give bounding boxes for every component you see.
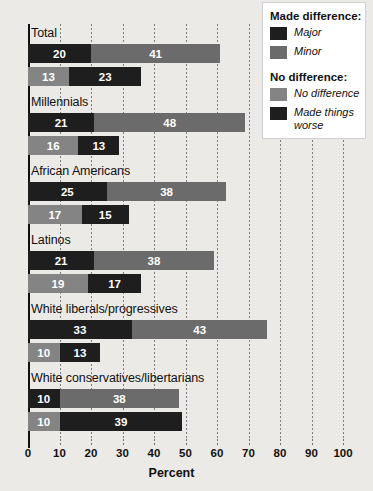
x-tick-label: 50 <box>171 447 201 459</box>
bar-row-made-difference: 2538 <box>28 182 343 201</box>
bar-row-no-difference: 1715 <box>28 205 343 224</box>
x-tick-label: 80 <box>265 447 295 459</box>
bar-segment: 25 <box>28 182 107 201</box>
x-tick <box>91 439 92 446</box>
legend-swatch-major <box>270 27 287 40</box>
bar-segment: 17 <box>28 205 82 224</box>
bar-segment: 13 <box>28 67 69 86</box>
bar-segment: 41 <box>91 44 220 63</box>
bar-segment: 38 <box>94 251 214 270</box>
x-tick-label: 10 <box>45 447 75 459</box>
bar-segment: 16 <box>28 136 78 155</box>
bar-segment: 39 <box>60 412 183 431</box>
bar-group: White liberals/progressives33431013 <box>28 302 343 371</box>
legend-item: Made things worse <box>270 106 365 131</box>
bar-segment: 19 <box>28 274 88 293</box>
bar-group: African Americans25381715 <box>28 164 343 233</box>
x-tick-label: 60 <box>202 447 232 459</box>
bar-row-made-difference: 2138 <box>28 251 343 270</box>
bar-group: White conservatives/libertarians10381039 <box>28 371 343 440</box>
legend: Made difference: MajorMinor No differenc… <box>262 2 366 139</box>
legend-group-no-difference: No differenceMade things worse <box>270 87 365 131</box>
x-tick-label: 20 <box>76 447 106 459</box>
legend-heading-made-difference: Made difference: <box>270 10 365 22</box>
legend-swatch-nodiff <box>270 88 287 101</box>
bar-segment: 33 <box>28 320 132 339</box>
bar-row-made-difference: 1038 <box>28 389 343 408</box>
group-label: Total <box>31 26 57 40</box>
bar-segment: 10 <box>28 389 60 408</box>
x-tick-label: 70 <box>234 447 264 459</box>
group-label: White conservatives/libertarians <box>31 371 204 385</box>
legend-item: No difference <box>270 87 365 101</box>
x-tick <box>217 439 218 446</box>
bar-segment: 17 <box>88 274 142 293</box>
bar-row-no-difference: 1917 <box>28 274 343 293</box>
legend-item-label: No difference <box>294 87 359 100</box>
bar-segment: 48 <box>94 113 245 132</box>
bar-group: Latinos21381917 <box>28 233 343 302</box>
legend-item: Major <box>270 26 365 40</box>
bar-segment: 21 <box>28 251 94 270</box>
legend-item: Minor <box>270 45 365 59</box>
x-tick-label: 0 <box>13 447 43 459</box>
group-label: White liberals/progressives <box>31 302 178 316</box>
x-tick-label: 100 <box>328 447 358 459</box>
x-tick <box>312 439 313 446</box>
x-tick <box>249 439 250 446</box>
x-axis-title: Percent <box>0 466 343 480</box>
legend-swatch-worse <box>270 107 287 120</box>
x-tick-label: 30 <box>108 447 138 459</box>
bar-row-no-difference: 1039 <box>28 412 343 431</box>
group-label: African Americans <box>31 164 130 178</box>
x-tick <box>280 439 281 446</box>
x-tick <box>123 439 124 446</box>
bar-segment: 15 <box>82 205 129 224</box>
legend-heading-no-difference: No difference: <box>270 71 365 83</box>
group-label: Latinos <box>31 233 71 247</box>
legend-swatch-minor <box>270 46 287 59</box>
bar-row-no-difference: 1013 <box>28 343 343 362</box>
x-tick <box>154 439 155 446</box>
bar-row-made-difference: 3343 <box>28 320 343 339</box>
legend-item-label: Major <box>294 26 322 39</box>
bar-segment: 21 <box>28 113 94 132</box>
bar-segment: 13 <box>78 136 119 155</box>
chart-figure: Total20411323Millennials21481613African … <box>0 0 373 491</box>
legend-item-label: Minor <box>294 45 322 58</box>
x-tick-label: 90 <box>297 447 327 459</box>
bar-segment: 38 <box>107 182 227 201</box>
bar-segment: 20 <box>28 44 91 63</box>
bar-segment: 38 <box>60 389 180 408</box>
group-label: Millennials <box>31 95 88 109</box>
x-tick <box>186 439 187 446</box>
legend-item-label: Made things worse <box>294 106 365 131</box>
x-tick <box>60 439 61 446</box>
bar-segment: 43 <box>132 320 267 339</box>
bar-segment: 23 <box>69 67 141 86</box>
legend-group-made-difference: MajorMinor <box>270 26 365 59</box>
x-tick-label: 40 <box>139 447 169 459</box>
bar-segment: 10 <box>28 343 60 362</box>
bar-segment: 10 <box>28 412 60 431</box>
x-tick <box>343 439 344 446</box>
bar-segment: 13 <box>60 343 101 362</box>
